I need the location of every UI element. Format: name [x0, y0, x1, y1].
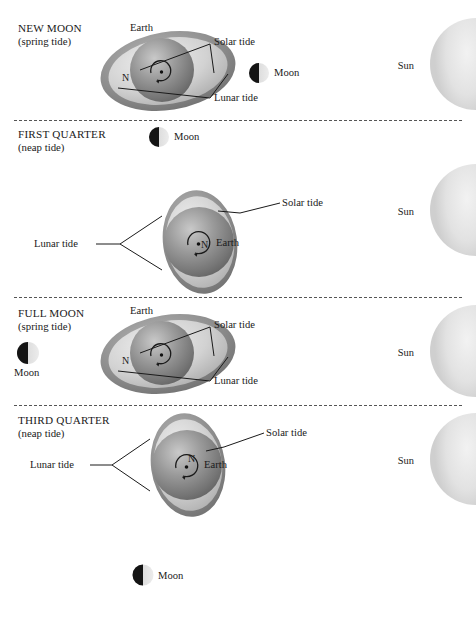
panel-new-moon: NEW MOON (spring tide) N	[0, 0, 476, 120]
tide-diagram: NEW MOON (spring tide) N	[0, 0, 476, 618]
leader-lines	[0, 405, 476, 618]
lunar-tide-label: Lunar tide	[214, 375, 258, 387]
sun-arc	[416, 18, 476, 110]
sun-label: Sun	[398, 455, 414, 466]
sun-label: Sun	[398, 347, 414, 358]
lunar-tide-label: Lunar tide	[30, 459, 74, 471]
sun-arc	[416, 305, 476, 397]
moon-phase-icon-third-quarter	[132, 563, 154, 587]
moon-phase-icon-new	[248, 62, 270, 84]
sun-arc	[416, 164, 476, 256]
sun-arc	[416, 413, 476, 505]
sun-label: Sun	[398, 60, 414, 71]
panel-full-moon: FULL MOON (spring tide) Moon N	[0, 297, 476, 405]
lunar-tide-label: Lunar tide	[34, 238, 78, 250]
solar-tide-label: Solar tide	[214, 319, 255, 331]
solar-tide-label: Solar tide	[266, 427, 307, 439]
earth-label: Earth	[204, 459, 227, 471]
earth-label: Earth	[130, 305, 153, 317]
panel-first-quarter: FIRST QUARTER (neap tide) Moon N	[0, 120, 476, 297]
earth-label: Earth	[216, 237, 239, 249]
earth-label: Earth	[130, 22, 153, 34]
moon-label: Moon	[158, 570, 183, 582]
solar-tide-label: Solar tide	[282, 197, 323, 209]
panel-third-quarter: THIRD QUARTER (neap tide) N Earth Solar …	[0, 405, 476, 618]
solar-tide-label: Solar tide	[214, 36, 255, 48]
moon-label: Moon	[274, 67, 299, 79]
sun-label: Sun	[398, 206, 414, 217]
lunar-tide-label: Lunar tide	[214, 92, 258, 104]
